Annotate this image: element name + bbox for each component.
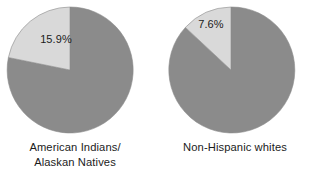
pie-panel-american-indians-alaskan-natives: 15.9% American Indians/ Alaskan Natives [0,0,150,176]
caption-line-1: American Indians/ [0,140,150,155]
pie-panel-non-hispanic-whites: 7.6% Non-Hispanic whites [160,0,310,176]
slice-value-label: 15.9% [26,33,86,45]
pie-caption-american-indians-alaskan-natives: American Indians/ Alaskan Natives [0,140,150,169]
caption-line-2: Alaskan Natives [0,155,150,170]
pie-svg-american-indians-alaskan-natives [0,0,150,140]
pie-chart-figure: 15.9% American Indians/ Alaskan Natives … [0,0,317,176]
slice-value-label: 7.6% [183,18,239,30]
pie-caption-non-hispanic-whites: Non-Hispanic whites [160,140,310,155]
caption-line-1: Non-Hispanic whites [160,140,310,155]
